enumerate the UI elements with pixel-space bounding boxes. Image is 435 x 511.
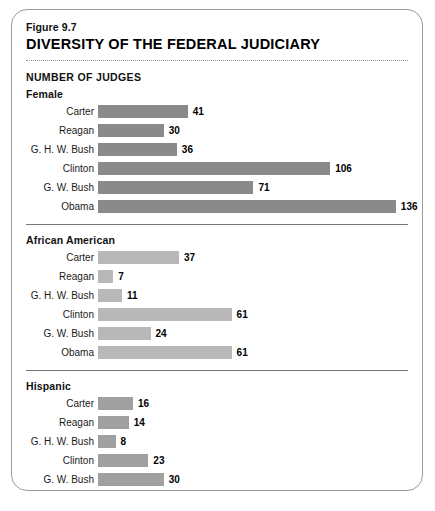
bar-row: G. W. Bush71 [26,179,408,196]
bar-label: Clinton [26,309,98,321]
bar [98,251,179,264]
bar-label: Obama [26,347,98,359]
bar-track: 37 [98,249,408,266]
bar-value: 41 [193,106,204,118]
bar [98,200,396,213]
bar-track: 106 [98,160,408,177]
bar-value: 37 [184,252,195,264]
bar-track: 71 [98,179,408,196]
bar-value: 106 [335,163,352,175]
bar-value: 23 [153,455,164,467]
bar-row: G. H. W. Bush11 [26,287,408,304]
bar [98,346,232,359]
bar-value: 24 [156,328,167,340]
bar-row: Reagan30 [26,122,408,139]
bar-value: 61 [237,347,248,359]
bar-track: 36 [98,490,408,491]
bar [98,473,164,486]
bar-track: 30 [98,471,408,488]
bar-label: Obama [26,201,98,213]
bar-track: 24 [98,325,408,342]
bar-row: G. H. W. Bush36 [26,141,408,158]
bar [98,416,129,429]
bar [98,181,253,194]
bar-track: 23 [98,452,408,469]
bar-row: Reagan7 [26,268,408,285]
bar-track: 136 [98,198,418,215]
bar-track: 11 [98,287,408,304]
bar-label: Carter [26,252,98,264]
bar [98,397,133,410]
figure-title: DIVERSITY OF THE FEDERAL JUDICIARY [26,35,408,53]
bar-track: 14 [98,414,408,431]
bar-track: 41 [98,103,408,120]
chart-section: HispanicCarter16Reagan14G. H. W. Bush8Cl… [26,370,408,491]
bar-label: G. H. W. Bush [26,436,98,448]
chart-panels: FemaleCarter41Reagan30G. H. W. Bush36Cli… [26,88,408,491]
bar-label: G. H. W. Bush [26,290,98,302]
bar-value: 136 [401,201,418,213]
bar [98,308,232,321]
bar-row: Clinton61 [26,306,408,323]
bar-track: 30 [98,122,408,139]
bar [98,143,177,156]
bar-value: 16 [138,398,149,410]
bar-value: 30 [169,125,180,137]
bar-label: G. W. Bush [26,474,98,486]
bar-row: G. W. Bush30 [26,471,408,488]
bar-track: 8 [98,433,408,450]
chart-section: African AmericanCarter37Reagan7G. H. W. … [26,224,408,361]
bar-label: Clinton [26,163,98,175]
bar [98,270,113,283]
bar-row: Clinton23 [26,452,408,469]
section-title: African American [26,234,408,246]
bar-value: 11 [127,290,138,302]
section-title: Female [26,88,408,100]
section-title: Hispanic [26,380,408,392]
bar [98,454,148,467]
bar-row: Obama136 [26,198,408,215]
bar [98,435,116,448]
bar-value: 30 [169,474,180,486]
bar-track: 61 [98,344,408,361]
bar-label: Clinton [26,455,98,467]
figure-card: Figure 9.7 DIVERSITY OF THE FEDERAL JUDI… [11,9,423,491]
figure-number: Figure 9.7 [26,21,408,34]
bar-row: Obama36 [26,490,408,491]
bar [98,105,188,118]
bar-value: 61 [237,309,248,321]
bar-label: Reagan [26,271,98,283]
bar [98,289,122,302]
bar-value: 14 [134,417,145,429]
bar-track: 36 [98,141,408,158]
bar-label: Carter [26,106,98,118]
chart-section: FemaleCarter41Reagan30G. H. W. Bush36Cli… [26,88,408,215]
bar-track: 61 [98,306,408,323]
bar-row: Carter41 [26,103,408,120]
bar-row: Carter37 [26,249,408,266]
bar-value: 8 [121,436,127,448]
bar-label: Reagan [26,125,98,137]
bar-row: Carter16 [26,395,408,412]
bar-row: Reagan14 [26,414,408,431]
title-divider [26,60,408,61]
bar-label: G. W. Bush [26,182,98,194]
bar [98,327,151,340]
bar-label: G. H. W. Bush [26,144,98,156]
bar-row: Clinton106 [26,160,408,177]
bar-label: G. W. Bush [26,328,98,340]
bar-value: 71 [258,182,269,194]
bar-track: 7 [98,268,408,285]
bar-row: Obama61 [26,344,408,361]
bar-label: Carter [26,398,98,410]
units-label: NUMBER OF JUDGES [26,71,408,83]
bar [98,124,164,137]
bar-value: 7 [118,271,124,283]
bar [98,162,330,175]
bar-label: Reagan [26,417,98,429]
bar-row: G. W. Bush24 [26,325,408,342]
bar-track: 16 [98,395,408,412]
bar-value: 36 [182,144,193,156]
bar-row: G. H. W. Bush8 [26,433,408,450]
